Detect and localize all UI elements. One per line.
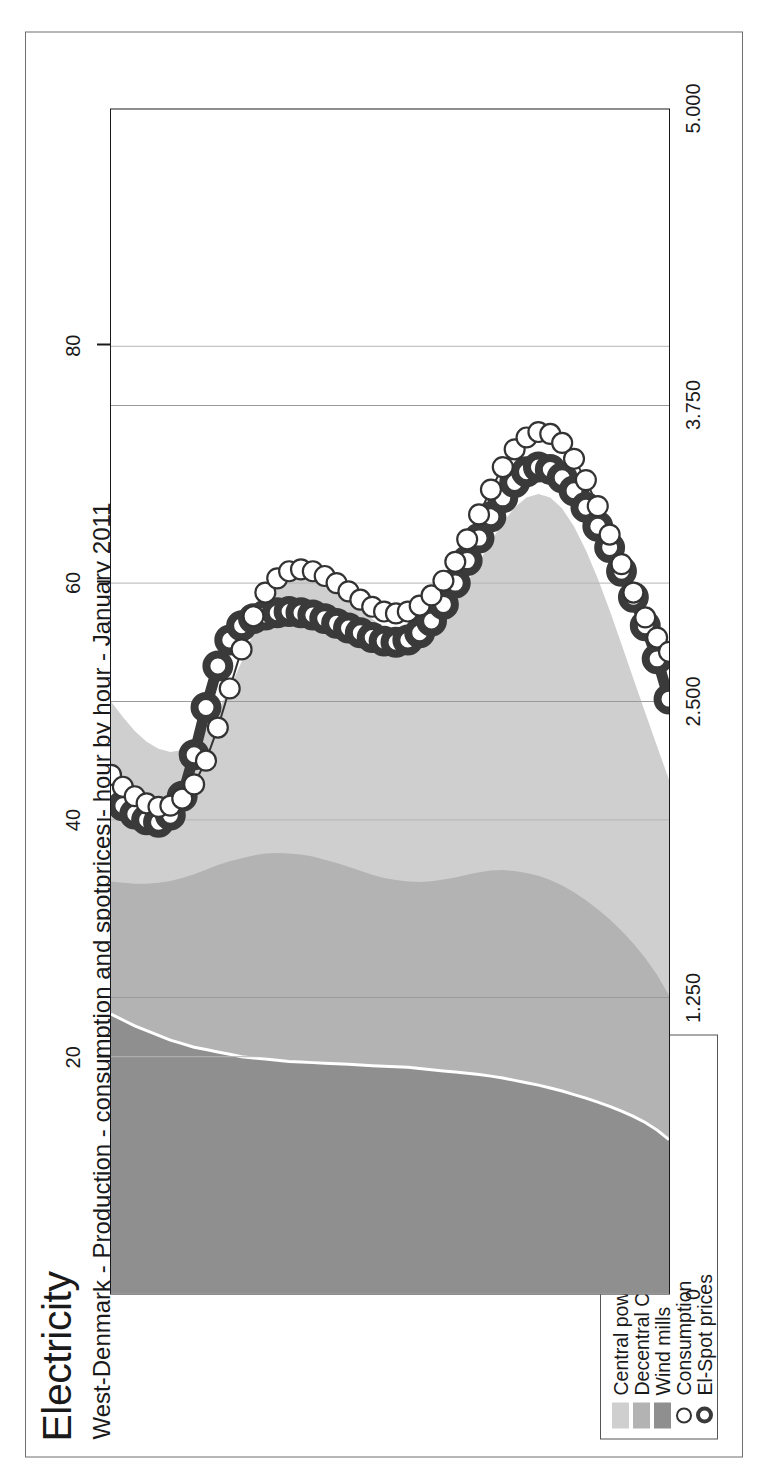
consumption-marker bbox=[433, 570, 453, 590]
el-spot-price-marker bbox=[206, 654, 229, 677]
legend-item: El-Spot prices bbox=[694, 1222, 715, 1428]
consumption-marker bbox=[481, 479, 501, 499]
consumption-marker bbox=[564, 448, 584, 468]
right-axis-tick-label: 80 bbox=[62, 334, 85, 356]
page-title: Electricity bbox=[34, 1271, 81, 1441]
chart-svg bbox=[111, 109, 669, 1293]
consumption-marker bbox=[196, 750, 216, 770]
thick-ring-icon bbox=[695, 1402, 714, 1428]
right-axis-tick-label: 20 bbox=[62, 1046, 85, 1068]
left-axis-tick-label: 0 bbox=[682, 1288, 705, 1299]
right-axis-tickmark bbox=[97, 580, 110, 582]
legend-item: Consumption bbox=[673, 1222, 694, 1428]
consumption-marker bbox=[635, 607, 655, 627]
consumption-marker bbox=[600, 524, 620, 544]
consumption-marker bbox=[588, 496, 608, 516]
consumption-marker bbox=[208, 717, 228, 737]
rotated-page-wrapper: Electricity West-Denmark - Production - … bbox=[0, 0, 770, 1479]
consumption-marker bbox=[469, 504, 489, 524]
plot-area bbox=[110, 108, 670, 1294]
legend-item-label: Wind mills bbox=[653, 1306, 673, 1395]
consumption-marker bbox=[184, 774, 204, 794]
el-spot-price-marker bbox=[195, 695, 218, 718]
right-axis-tickmark bbox=[97, 1055, 110, 1057]
legend-swatch-icon bbox=[654, 1402, 671, 1428]
consumption-marker bbox=[576, 470, 596, 490]
consumption-marker bbox=[612, 554, 632, 574]
consumption-marker bbox=[445, 551, 465, 571]
left-axis-tick-label: 2.500 bbox=[682, 676, 705, 726]
el-spot-price-marker bbox=[658, 687, 669, 710]
consumption-marker bbox=[623, 582, 643, 602]
consumption-marker bbox=[232, 639, 252, 659]
chart-canvas: Electricity West-Denmark - Production - … bbox=[0, 0, 770, 1479]
legend-swatch-icon bbox=[633, 1402, 650, 1428]
left-axis-tick-label: 5.000 bbox=[682, 83, 705, 133]
legend-swatch-icon bbox=[612, 1402, 629, 1428]
consumption-marker bbox=[493, 457, 513, 477]
thin-ring-icon bbox=[674, 1402, 693, 1428]
right-axis-tickmark bbox=[97, 343, 110, 345]
right-axis-tickmark bbox=[97, 818, 110, 820]
consumption-marker bbox=[457, 529, 477, 549]
left-axis-tick-label: 3.750 bbox=[682, 379, 705, 429]
left-axis-tick-label: 1.250 bbox=[682, 972, 705, 1022]
consumption-marker bbox=[244, 606, 264, 626]
right-axis-tick-label: 40 bbox=[62, 808, 85, 830]
right-axis-tick-label: 60 bbox=[62, 571, 85, 593]
consumption-marker bbox=[220, 678, 240, 698]
